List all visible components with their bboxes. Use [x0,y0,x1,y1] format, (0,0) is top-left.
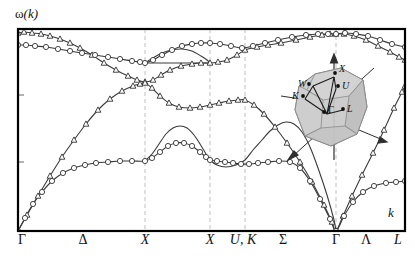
bz-point-dot-W [307,82,311,86]
data-marker-circle [39,189,44,194]
bz-point-dot-Γ [322,110,326,114]
data-marker-circle [217,41,222,46]
data-marker-triangle [251,102,257,107]
bz-label-U: U [342,80,350,91]
data-marker-circle [105,159,110,164]
x-axis-label-0: Γ [18,232,26,248]
x-axis-label-8: L [394,232,402,248]
data-marker-circle [117,56,122,61]
x-axis-label-1: Δ [78,232,87,248]
data-marker-circle [222,159,227,164]
data-marker-circle [129,158,134,163]
brillouin-zone-inset: XWUKΓL [279,52,389,164]
data-marker-circle [360,189,365,194]
x-axis-label-6: Γ [332,232,340,248]
data-marker-circle [82,162,87,167]
data-marker-circle [317,196,322,201]
data-marker-triangle [101,60,107,65]
bz-label-Γ: Γ [328,104,334,115]
data-marker-triangle [119,88,125,93]
data-marker-circle [159,52,164,57]
data-marker-circle [60,170,65,175]
data-marker-circle [169,47,174,52]
data-marker-circle [93,160,98,165]
data-marker-circle [275,37,280,42]
phonon-dispersion-figure: ω(k) [0,0,415,258]
data-marker-triangle [391,105,397,110]
data-marker-circle [393,179,398,184]
data-marker-circle [30,201,35,206]
data-marker-circle [246,161,251,166]
x-axis-label-2: X [141,232,150,248]
data-marker-circle [297,165,302,170]
x-axis-tick-labels: ΓΔXXU, KΣΓΛL [0,232,415,256]
data-marker-circle [265,159,270,164]
x-axis-label-4: U, K [230,232,256,248]
data-marker-circle [157,149,162,154]
data-marker-circle [43,44,48,49]
data-marker-circle [342,30,347,35]
data-marker-triangle [158,72,164,77]
data-marker-circle [49,178,54,183]
data-marker-circle [239,45,244,50]
data-marker-circle [79,50,84,55]
data-marker-circle [129,58,134,63]
data-marker-circle [262,40,267,45]
data-marker-circle [181,140,186,145]
data-marker-circle [173,140,178,145]
data-marker-circle [117,158,122,163]
data-marker-circle [238,161,243,166]
data-marker-circle [350,199,355,204]
data-marker-circle [189,143,194,148]
data-marker-circle [32,43,37,48]
data-marker-circle [92,52,97,57]
data-marker-triangle [77,45,83,50]
x-axis-label-5: Σ [279,232,287,248]
data-marker-circle [333,31,338,36]
bz-point-dot-X [333,71,337,75]
data-marker-circle [307,178,312,183]
x-axis-label-7: Λ [361,232,371,248]
bz-arrow-up-head [331,54,338,63]
data-marker-triangle [359,172,365,177]
data-marker-circle [67,48,72,53]
bz-point-dot-U [336,84,340,88]
data-marker-circle [189,41,194,46]
data-marker-triangle [107,96,113,101]
data-marker-circle [228,43,233,48]
bz-label-X: X [338,63,346,74]
data-marker-circle [197,149,202,154]
data-marker-circle [22,215,27,220]
data-marker-circle [179,43,184,48]
bz-point-dot-L [341,107,345,111]
data-marker-triangle [349,193,355,198]
data-marker-circle [389,41,394,46]
bz-point-dot-K [301,94,305,98]
bz-arrow-se-head [378,137,387,143]
data-marker-circle [315,31,320,36]
data-marker-circle [325,31,330,36]
data-marker-circle [289,34,294,39]
data-marker-circle [137,59,142,64]
data-marker-circle [353,31,358,36]
data-marker-circle [207,157,212,162]
data-marker-triangle [166,100,172,105]
data-marker-circle [377,37,382,42]
data-marker-circle [207,40,212,45]
data-marker-circle [383,180,388,185]
data-marker-triangle [113,67,119,72]
data-marker-circle [149,155,154,160]
data-marker-circle [303,32,308,37]
data-marker-circle [165,143,170,148]
data-marker-circle [198,40,203,45]
data-marker-circle [371,183,376,188]
data-marker-circle [55,46,60,51]
bz-label-K: K [291,90,300,101]
data-marker-triangle [396,54,402,59]
data-marker-circle [327,216,332,221]
data-marker-triangle [234,52,240,57]
data-marker-circle [142,60,147,65]
data-marker-circle [255,160,260,165]
data-marker-circle [341,213,346,218]
data-marker-circle [365,33,370,38]
